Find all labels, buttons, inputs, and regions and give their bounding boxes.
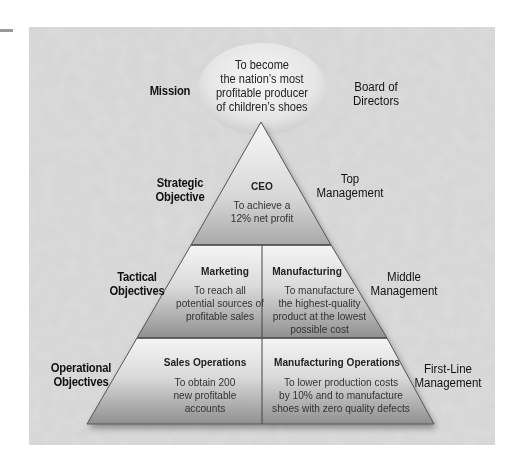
- management-label-text: First-Line: [411, 362, 485, 376]
- cell-text-line: To reach all: [160, 284, 280, 297]
- cell-text-line: possible cost: [267, 323, 373, 336]
- cell-title-manufacturing: Manufacturing: [266, 265, 349, 277]
- management-label-top: Top Management: [313, 172, 387, 200]
- cell-text-line: profitable sales: [160, 310, 280, 323]
- cell-title-manufacturing-operations: Manufacturing Operations: [268, 356, 406, 368]
- cell-title-sales-operations: Sales Operations: [150, 356, 260, 368]
- level-label-operational: Operational Objectives: [41, 361, 122, 389]
- cell-text-sales-operations: To obtain 200 new profitable accounts: [154, 376, 255, 415]
- cell-text-line: new profitable: [154, 389, 255, 402]
- level-label-text: Strategic: [144, 176, 216, 190]
- management-label-text: Middle: [367, 270, 441, 284]
- cell-title-ceo: CEO: [225, 180, 299, 192]
- cell-text-line: 12% net profit: [211, 212, 312, 225]
- cell-text-line: potential sources of: [160, 297, 280, 310]
- cell-text-line: To obtain 200: [154, 376, 255, 389]
- management-label-board: Board of Directors: [339, 80, 413, 108]
- cell-text-manufacturing: To manufacture the highest-quality produ…: [267, 284, 373, 336]
- mission-line: profitable producer: [205, 86, 319, 100]
- cell-text-line: by 10% and to manufacture: [268, 389, 413, 402]
- level-label-text: Tactical: [101, 270, 173, 284]
- cell-text-marketing: To reach all potential sources of profit…: [160, 284, 280, 323]
- level-label-text: Operational: [41, 361, 122, 375]
- management-label-text: Top: [313, 172, 387, 186]
- cell-text-ceo: To achieve a 12% net profit: [211, 199, 312, 225]
- mission-line: the nation’s most: [205, 72, 319, 86]
- cell-text-line: To manufacture: [267, 284, 373, 297]
- mission-line: of children’s shoes: [205, 100, 319, 114]
- cell-text-line: the highest-quality: [267, 297, 373, 310]
- level-label-text: Objective: [144, 190, 216, 204]
- cell-text-line: To lower production costs: [268, 376, 413, 389]
- management-label-text: Board of: [339, 80, 413, 94]
- level-label-strategic: Strategic Objective: [144, 176, 216, 204]
- cell-text-line: To achieve a: [211, 199, 312, 212]
- cell-text-manufacturing-operations: To lower production costs by 10% and to …: [268, 376, 413, 415]
- mission-statement: To become the nation’s most profitable p…: [205, 58, 319, 114]
- level-label-mission: Mission: [134, 84, 206, 98]
- management-label-text: Management: [313, 186, 387, 200]
- cell-title-marketing: Marketing: [184, 265, 267, 277]
- cell-text-line: accounts: [154, 402, 255, 415]
- management-label-middle: Middle Management: [367, 270, 441, 298]
- mission-line: To become: [205, 58, 319, 72]
- cell-text-line: shoes with zero quality defects: [268, 402, 413, 415]
- level-label-text: Objectives: [41, 375, 122, 389]
- cell-text-line: product at the lowest: [267, 310, 373, 323]
- management-label-text: Management: [367, 284, 441, 298]
- management-label-text: Management: [411, 376, 485, 390]
- management-label-first-line: First-Line Management: [411, 362, 485, 390]
- level-label-text: Mission: [134, 84, 206, 98]
- management-label-text: Directors: [339, 94, 413, 108]
